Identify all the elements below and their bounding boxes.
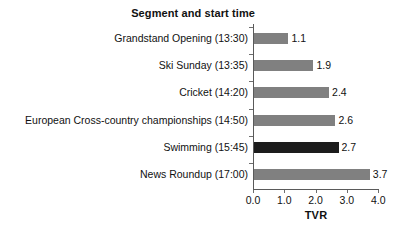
category-label-3: European Cross-country championships (14… xyxy=(0,115,248,126)
category-tick-0 xyxy=(249,27,253,28)
value-tick-3 xyxy=(347,190,348,193)
bar-4[interactable] xyxy=(254,142,339,153)
category-axis-line xyxy=(253,24,254,190)
bar-value-label-2: 2.4 xyxy=(332,87,347,98)
value-tick-label-4: 4.0 xyxy=(358,194,398,206)
bar-2[interactable] xyxy=(254,87,329,98)
bar-1[interactable] xyxy=(254,60,313,71)
category-label-2: Cricket (14:20) xyxy=(0,87,248,98)
bar-value-label-1: 1.9 xyxy=(316,60,331,71)
category-label-4: Swimming (15:45) xyxy=(0,142,248,153)
category-label-0: Grandstand Opening (13:30) xyxy=(0,33,248,44)
category-tick-5 xyxy=(249,163,253,164)
bar-5[interactable] xyxy=(254,169,370,180)
category-tick-3 xyxy=(249,109,253,110)
x-axis-title: TVR xyxy=(253,209,379,221)
bar-value-label-5: 3.7 xyxy=(373,169,388,180)
value-tick-1 xyxy=(284,190,285,193)
bar-0[interactable] xyxy=(254,33,288,44)
category-label-1: Ski Sunday (13:35) xyxy=(0,60,248,71)
category-tick-2 xyxy=(249,81,253,82)
bar-chart: Segment and start time 1.11.92.42.62.73.… xyxy=(0,0,399,228)
category-label-5: News Roundup (17:00) xyxy=(0,169,248,180)
value-tick-4 xyxy=(378,190,379,193)
bar-value-label-4: 2.7 xyxy=(342,142,357,153)
category-tick-4 xyxy=(249,136,253,137)
value-tick-0 xyxy=(253,190,254,193)
bar-3[interactable] xyxy=(254,115,335,126)
chart-title: Segment and start time xyxy=(0,7,255,19)
category-tick-1 xyxy=(249,54,253,55)
bar-value-label-0: 1.1 xyxy=(291,33,306,44)
value-tick-2 xyxy=(316,190,317,193)
bar-value-label-3: 2.6 xyxy=(338,115,353,126)
